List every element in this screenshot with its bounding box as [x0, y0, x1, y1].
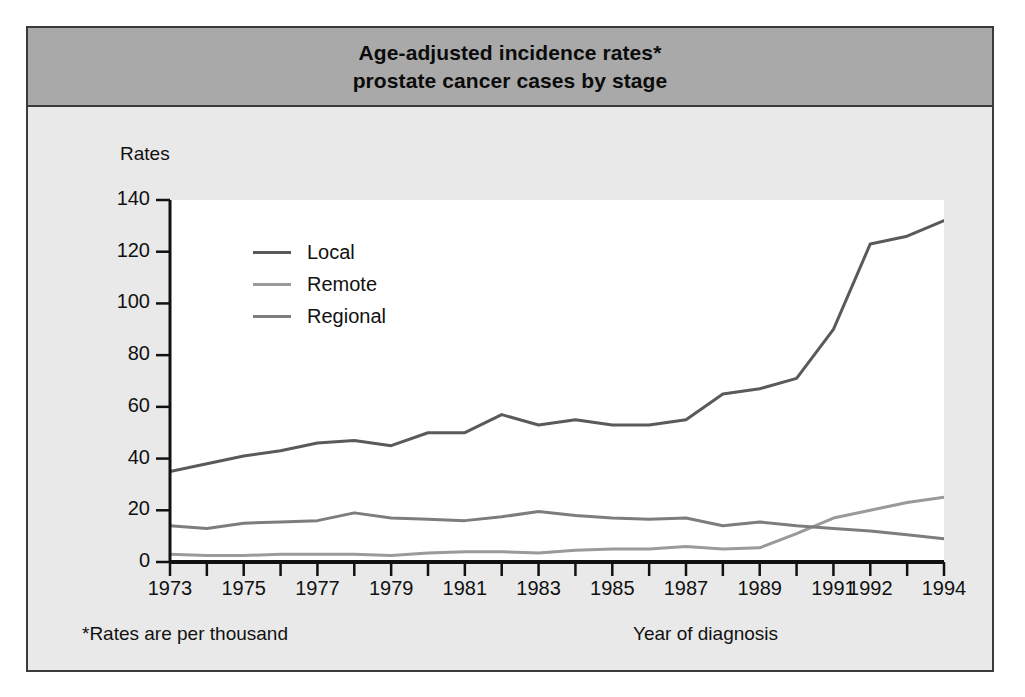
- y-tick-label: 120: [92, 239, 150, 262]
- x-tick-label: 1989: [725, 577, 795, 600]
- y-tick-label: 140: [92, 187, 150, 210]
- x-tick-label: 1985: [577, 577, 647, 600]
- x-tick-label: 1975: [209, 577, 279, 600]
- series-line-regional: [170, 512, 944, 539]
- y-axis-title: Rates: [120, 143, 170, 165]
- x-tick-label: 1981: [430, 577, 500, 600]
- y-tick-label: 20: [92, 497, 150, 520]
- y-tick-label: 60: [92, 394, 150, 417]
- series-line-remote: [170, 497, 944, 555]
- legend-item-regional: Regional: [253, 300, 386, 332]
- y-tick-label: 0: [92, 549, 150, 572]
- legend-swatch-icon: [253, 315, 291, 318]
- legend-item-remote: Remote: [253, 268, 386, 300]
- y-tick-label: 100: [92, 290, 150, 313]
- legend-label: Remote: [307, 273, 377, 296]
- x-tick-label: 1983: [504, 577, 574, 600]
- x-tick-label: 1992: [835, 577, 905, 600]
- x-tick-label: 1977: [282, 577, 352, 600]
- chart-title-band: Age-adjusted incidence rates* prostate c…: [28, 28, 992, 107]
- x-axis-title: Year of diagnosis: [633, 623, 778, 645]
- x-tick-label: 1979: [356, 577, 426, 600]
- chart-title-line-1: Age-adjusted incidence rates*: [359, 39, 662, 67]
- chart-body: Rates LocalRemoteRegional Year of diagno…: [28, 107, 992, 670]
- legend-item-local: Local: [253, 236, 386, 268]
- y-tick-label: 40: [92, 446, 150, 469]
- chart-footnote: *Rates are per thousand: [82, 623, 288, 645]
- legend-label: Local: [307, 241, 355, 264]
- legend-label: Regional: [307, 305, 386, 328]
- chart-figure: Age-adjusted incidence rates* prostate c…: [26, 26, 994, 672]
- chart-title-line-2: prostate cancer cases by stage: [353, 67, 668, 95]
- x-tick-label: 1973: [135, 577, 205, 600]
- legend-swatch-icon: [253, 251, 291, 254]
- chart-legend: LocalRemoteRegional: [253, 236, 386, 332]
- x-tick-label: 1987: [651, 577, 721, 600]
- x-tick-label: 1994: [909, 577, 979, 600]
- y-tick-label: 80: [92, 342, 150, 365]
- legend-swatch-icon: [253, 283, 291, 286]
